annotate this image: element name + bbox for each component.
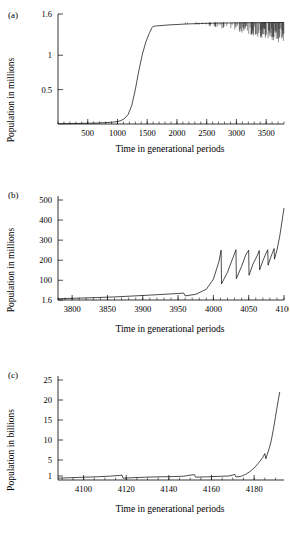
svg-text:15: 15: [44, 415, 53, 425]
svg-text:0.5: 0.5: [41, 85, 52, 95]
svg-text:500: 500: [81, 128, 94, 138]
svg-text:4180: 4180: [246, 484, 263, 494]
svg-text:200: 200: [39, 255, 52, 265]
svg-text:1: 1: [48, 471, 52, 481]
svg-text:3900: 3900: [134, 304, 151, 314]
svg-text:300: 300: [39, 235, 52, 245]
panel-c-series: [58, 392, 280, 478]
panel-c-label: (c): [8, 370, 18, 380]
panel-c-xlabel: Time in generational periods: [115, 504, 224, 514]
svg-text:1: 1: [48, 50, 52, 60]
svg-text:3850: 3850: [99, 304, 116, 314]
svg-text:1.6: 1.6: [41, 9, 52, 19]
svg-text:2000: 2000: [168, 128, 185, 138]
panel-b-plot: (b) Population in millions Time in gener…: [0, 180, 289, 360]
svg-text:3950: 3950: [170, 304, 187, 314]
panel-c-axes: 151015202541004120414041604180: [44, 375, 285, 494]
figure-population-dynamics: (a) Population in millions Time in gener…: [0, 0, 289, 540]
panel-a-xlabel: Time in generational periods: [115, 144, 224, 154]
panel-a-plot: (a) Population in millions Time in gener…: [0, 0, 289, 180]
svg-text:100: 100: [39, 275, 52, 285]
panel-a-ylabel: Population in millions: [6, 57, 16, 142]
svg-text:1.6: 1.6: [41, 295, 52, 305]
svg-text:1000: 1000: [109, 128, 126, 138]
svg-text:500: 500: [39, 195, 52, 205]
svg-text:4140: 4140: [160, 484, 177, 494]
svg-text:3000: 3000: [228, 128, 245, 138]
svg-text:5: 5: [48, 455, 52, 465]
panel-a: (a) Population in millions Time in gener…: [0, 0, 289, 180]
svg-text:3800: 3800: [64, 304, 81, 314]
panel-b-series: [58, 208, 284, 299]
panel-b-ylabel: Population in millions: [6, 227, 16, 312]
svg-text:4000: 4000: [205, 304, 222, 314]
svg-text:1500: 1500: [139, 128, 156, 138]
svg-text:400: 400: [39, 215, 52, 225]
panel-c-ylabel: Population in billions: [6, 409, 16, 491]
panel-b-xlabel: Time in generational periods: [115, 324, 224, 334]
svg-text:4120: 4120: [118, 484, 135, 494]
svg-text:3500: 3500: [258, 128, 275, 138]
svg-text:25: 25: [44, 375, 53, 385]
svg-text:2500: 2500: [198, 128, 215, 138]
panel-c: (c) Population in billions Time in gener…: [0, 360, 289, 540]
panel-b-label: (b): [8, 190, 19, 200]
svg-text:4100: 4100: [75, 484, 92, 494]
svg-text:4160: 4160: [203, 484, 220, 494]
panel-a-series: [58, 23, 284, 124]
panel-b: (b) Population in millions Time in gener…: [0, 180, 289, 360]
panel-b-axes: 1.61002003004005003800385039003950400040…: [39, 195, 289, 314]
svg-text:20: 20: [44, 395, 53, 405]
svg-text:10: 10: [44, 435, 53, 445]
svg-text:4050: 4050: [240, 304, 257, 314]
panel-a-label: (a): [8, 10, 18, 20]
panel-c-plot: (c) Population in billions Time in gener…: [0, 360, 289, 540]
svg-text:4100: 4100: [276, 304, 290, 314]
